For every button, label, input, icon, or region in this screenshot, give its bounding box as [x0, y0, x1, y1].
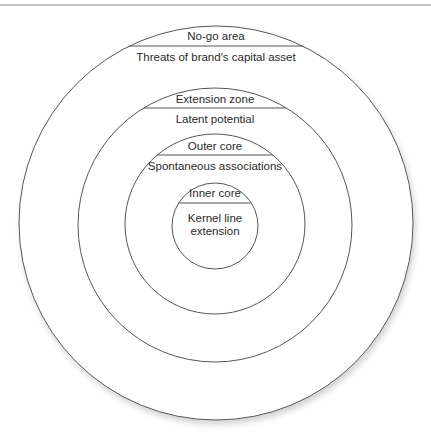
third-ring-description: Spontaneous associations — [148, 160, 283, 172]
brand-extension-zones-diagram: No-go area Threats of brand's capital as… — [0, 0, 431, 435]
outer-ring-zone-label: No-go area — [187, 30, 245, 42]
second-ring-description: Latent potential — [176, 113, 255, 125]
second-ring-zone-label: Extension zone — [176, 93, 255, 105]
third-ring-zone-label: Outer core — [188, 140, 242, 152]
outer-ring-description: Threats of brand's capital asset — [136, 51, 296, 63]
inner-ring-zone-label: Inner core — [189, 187, 241, 199]
inner-ring-description-line2: extension — [190, 225, 239, 237]
inner-ring-description-line1: Kernel line — [188, 212, 242, 224]
